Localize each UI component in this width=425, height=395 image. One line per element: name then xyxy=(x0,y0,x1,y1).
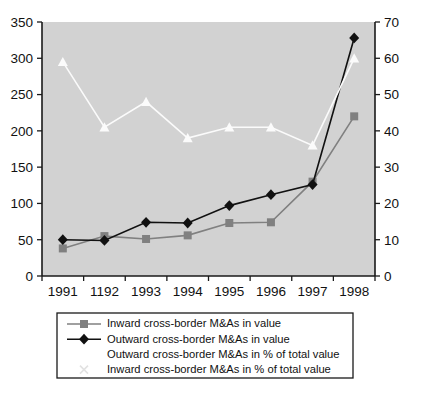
x-axis-tick-label: 1995 xyxy=(214,284,244,299)
x-axis-tick-label: 1991 xyxy=(48,284,78,299)
x-axis-tick-label: 1994 xyxy=(173,284,204,299)
right-axis-tick-label: 30 xyxy=(384,160,399,175)
legend-label: Outward cross-border M&As in value xyxy=(107,333,290,345)
data-point xyxy=(267,218,275,226)
legend-marker-square-icon xyxy=(80,320,88,328)
chart-figure: 050100150200250300350 010203040506070 19… xyxy=(0,0,425,395)
x-axis-tick-label: 1192 xyxy=(90,284,119,299)
left-axis-tick-label: 0 xyxy=(25,269,33,284)
left-axis-tick-label: 350 xyxy=(10,15,33,30)
legend-entry[interactable]: Outward cross-border M&As in % of total … xyxy=(107,348,340,360)
right-axis-tick-label: 20 xyxy=(384,196,399,211)
chart-canvas: 050100150200250300350 010203040506070 19… xyxy=(0,0,425,395)
legend-label: Inward cross-border M&As in value xyxy=(107,317,281,329)
data-point xyxy=(142,235,150,243)
left-axis-tick-label: 200 xyxy=(10,124,33,139)
right-axis-tick-label: 40 xyxy=(384,124,399,139)
data-point xyxy=(225,219,233,227)
right-axis-tick-label: 70 xyxy=(384,15,399,30)
legend-label: Inward cross-border M&As in % of total v… xyxy=(107,363,331,375)
data-point xyxy=(350,112,358,120)
chart-legend: Inward cross-border M&As in valueOutward… xyxy=(57,313,353,378)
x-axis-tick-label: 1996 xyxy=(256,284,286,299)
left-axis-tick-label: 150 xyxy=(10,160,33,175)
x-axis-tick-label: 1993 xyxy=(131,284,161,299)
left-axis-tick-label: 100 xyxy=(10,196,33,211)
right-axis-tick-label: 50 xyxy=(384,87,399,102)
left-axis-tick-label: 250 xyxy=(10,87,33,102)
x-axis-tick-label: 1998 xyxy=(339,284,369,299)
right-axis-tick-label: 0 xyxy=(384,269,392,284)
right-axis-tick-label: 10 xyxy=(384,233,399,248)
left-axis-tick-label: 50 xyxy=(18,233,33,248)
legend-label: Outward cross-border M&As in % of total … xyxy=(107,348,340,360)
x-axis-tick-label: 1997 xyxy=(298,284,328,299)
data-point xyxy=(184,231,192,239)
legend-entry[interactable]: Inward cross-border M&As in % of total v… xyxy=(80,363,331,375)
plot-area-background xyxy=(42,22,375,276)
left-axis-tick-label: 300 xyxy=(10,51,33,66)
right-axis-tick-label: 60 xyxy=(384,51,399,66)
data-point xyxy=(59,244,67,252)
